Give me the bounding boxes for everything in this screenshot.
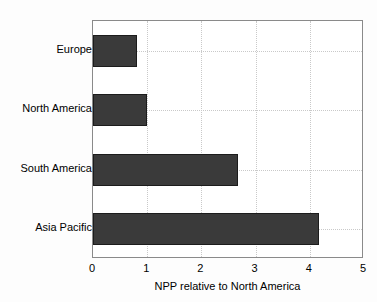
x-tick-label-3: 3 bbox=[240, 262, 270, 275]
y-axis-label-europe: Europe bbox=[57, 43, 92, 56]
y-axis-label-north-america: North America bbox=[22, 102, 92, 115]
bar bbox=[93, 154, 238, 186]
bar-chart-figure: EuropeNorth AmericaSouth AmericaAsia Pac… bbox=[0, 0, 377, 302]
y-axis-label-asia-pacific: Asia Pacific bbox=[35, 221, 92, 234]
x-tick-label-4: 4 bbox=[294, 262, 324, 275]
x-tick-label-2: 2 bbox=[185, 262, 215, 275]
x-axis-title: NPP relative to North America bbox=[92, 280, 363, 293]
plot-area bbox=[92, 20, 363, 258]
bar bbox=[93, 94, 147, 126]
x-tick-label-0: 0 bbox=[77, 262, 107, 275]
bar bbox=[93, 35, 137, 67]
x-tick-label-1: 1 bbox=[131, 262, 161, 275]
bar bbox=[93, 213, 319, 245]
y-axis-label-south-america: South America bbox=[20, 162, 92, 175]
x-tick-label-5: 5 bbox=[348, 262, 377, 275]
